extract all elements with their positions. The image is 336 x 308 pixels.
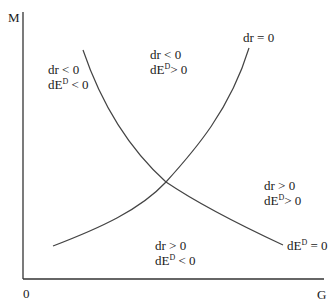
dE-zero-label: dED = 0 bbox=[287, 238, 328, 253]
region-bottom-line2: dED < 0 bbox=[155, 253, 196, 268]
region-right-label: dr > 0 dED> 0 bbox=[264, 178, 301, 208]
dE-zero-label-tail: = 0 bbox=[307, 238, 327, 253]
region-right-line2-tail: > 0 bbox=[284, 193, 301, 208]
region-left-line2-tail: < 0 bbox=[68, 77, 88, 92]
region-left-line2: dED < 0 bbox=[48, 77, 89, 92]
region-bottom-line2-base: dE bbox=[155, 253, 169, 268]
region-bottom-line2-tail: < 0 bbox=[175, 253, 195, 268]
region-top-line1: dr < 0 bbox=[150, 47, 187, 62]
region-top-line2: dED> 0 bbox=[150, 62, 187, 77]
y-axis-label: M bbox=[8, 10, 20, 25]
dr-zero-label: dr = 0 bbox=[243, 30, 274, 45]
region-top-label: dr < 0 dED> 0 bbox=[150, 47, 187, 77]
region-right-line2: dED> 0 bbox=[264, 193, 301, 208]
dE-zero-curve bbox=[83, 50, 283, 245]
region-top-line2-tail: > 0 bbox=[170, 62, 187, 77]
region-left-label: dr < 0 dED < 0 bbox=[48, 62, 89, 92]
dE-zero-label-base: dE bbox=[287, 238, 301, 253]
origin-label: 0 bbox=[23, 286, 30, 301]
phase-diagram: M G 0 dr = 0 dED = 0 dr < 0 dED < 0 dr <… bbox=[0, 0, 336, 308]
region-right-line2-base: dE bbox=[264, 193, 278, 208]
region-left-line2-base: dE bbox=[48, 77, 62, 92]
region-bottom-line1: dr > 0 bbox=[155, 238, 196, 253]
region-top-line2-base: dE bbox=[150, 62, 164, 77]
region-right-line1: dr > 0 bbox=[264, 178, 301, 193]
region-bottom-label: dr > 0 dED < 0 bbox=[155, 238, 196, 268]
region-left-line1: dr < 0 bbox=[48, 62, 89, 77]
x-axis-label: G bbox=[317, 287, 326, 302]
